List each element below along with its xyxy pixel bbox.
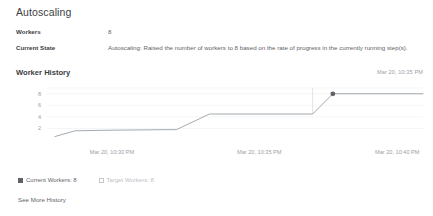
property-value-current-state: Autoscaling: Raised the number of worker… — [108, 43, 421, 53]
chart-yticks: 2468 — [38, 91, 41, 132]
property-value-workers: 8 — [108, 27, 421, 37]
worker-history-chart[interactable]: 2468 Mar 20, 10:30 PMMar 20, 10:35 PMMar… — [0, 80, 433, 168]
property-row-workers: Workers 8 — [16, 27, 421, 37]
legend-label-current-workers: Current Workers: 8 — [26, 177, 77, 183]
autoscaling-panel: Autoscaling Workers 8 Current State Auto… — [0, 0, 433, 216]
see-more-history-link[interactable]: See More History — [18, 196, 66, 203]
chart-svg[interactable]: 2468 Mar 20, 10:30 PMMar 20, 10:35 PMMar… — [0, 80, 433, 168]
svg-text:8: 8 — [38, 91, 41, 97]
legend-swatch-icon-current-workers[interactable] — [18, 178, 23, 183]
worker-history-timestamp: Mar 20, 10:35 PM — [377, 69, 423, 75]
legend-item-target-workers[interactable]: Target Workers: 8 — [99, 177, 154, 183]
svg-text:Mar 20, 10:40 PM: Mar 20, 10:40 PM — [375, 149, 420, 155]
chart-xticks: Mar 20, 10:30 PMMar 20, 10:35 PMMar 20, … — [90, 149, 420, 155]
chart-legend: Current Workers: 8 Target Workers: 8 — [18, 177, 154, 183]
worker-history-title: Worker History — [16, 68, 70, 77]
chart-series-current-workers — [55, 94, 423, 137]
svg-text:Mar 20, 10:35 PM: Mar 20, 10:35 PM — [237, 149, 282, 155]
property-row-current-state: Current State Autoscaling: Raised the nu… — [16, 43, 421, 53]
svg-text:4: 4 — [38, 114, 41, 120]
page-title: Autoscaling — [16, 6, 71, 18]
svg-text:Mar 20, 10:30 PM: Mar 20, 10:30 PM — [90, 149, 135, 155]
legend-swatch-icon-target-workers[interactable] — [99, 178, 104, 183]
property-label-workers: Workers — [16, 27, 108, 36]
property-label-current-state: Current State — [16, 43, 108, 52]
svg-text:6: 6 — [38, 102, 41, 108]
autoscaling-properties: Workers 8 Current State Autoscaling: Rai… — [16, 27, 421, 58]
chart-marker-point[interactable] — [330, 91, 335, 96]
legend-label-target-workers: Target Workers: 8 — [107, 177, 154, 183]
legend-item-current-workers[interactable]: Current Workers: 8 — [18, 177, 77, 183]
svg-text:2: 2 — [38, 125, 41, 131]
